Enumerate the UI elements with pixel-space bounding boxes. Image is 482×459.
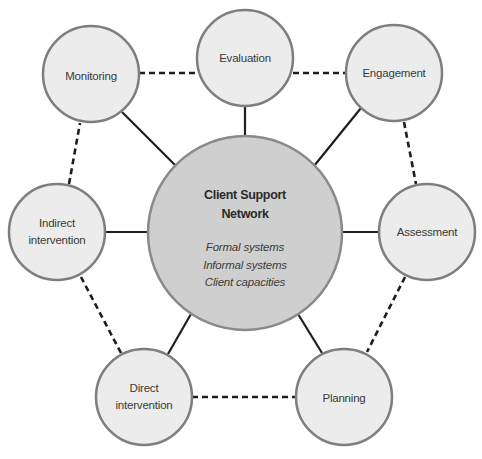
- link-center-planning: [298, 314, 322, 353]
- node-direct-intervention: Direct intervention: [96, 380, 192, 414]
- link-center-monitoring: [122, 112, 176, 166]
- link-engagement-assessment: [404, 122, 416, 184]
- center-title-line1: Client Support: [165, 186, 325, 205]
- node-planning: Planning: [296, 390, 392, 407]
- link-assessment-planning: [367, 277, 405, 352]
- center-node: Client Support Network Formal systems In…: [165, 186, 325, 292]
- link-center-direct-intervention: [168, 314, 191, 354]
- node-label-assessment: Assessment: [379, 224, 475, 241]
- center-item-informal-systems: Informal systems: [165, 257, 325, 275]
- center-items: Formal systems Informal systems Client c…: [165, 239, 325, 292]
- node-label-direct-line2: intervention: [96, 397, 192, 414]
- node-label-indirect-line2: intervention: [9, 232, 105, 249]
- node-label-monitoring: Monitoring: [43, 68, 139, 85]
- node-label-planning: Planning: [296, 390, 392, 407]
- node-label-indirect-line1: Indirect: [9, 215, 105, 232]
- node-indirect-intervention: Indirect intervention: [9, 215, 105, 249]
- node-evaluation: Evaluation: [197, 50, 293, 67]
- link-indirect-intervention-monitoring: [69, 123, 80, 184]
- node-label-engagement: Engagement: [346, 65, 442, 82]
- center-title-line2: Network: [165, 205, 325, 224]
- link-direct-intervention-indirect-intervention: [81, 277, 121, 353]
- node-monitoring: Monitoring: [43, 68, 139, 85]
- node-label-direct-line1: Direct: [96, 380, 192, 397]
- center-title: Client Support Network: [165, 186, 325, 224]
- center-item-client-capacities: Client capacities: [165, 274, 325, 292]
- link-center-engagement: [314, 108, 361, 166]
- node-assessment: Assessment: [379, 224, 475, 241]
- node-label-evaluation: Evaluation: [197, 50, 293, 67]
- center-item-formal-systems: Formal systems: [165, 239, 325, 257]
- node-engagement: Engagement: [346, 65, 442, 82]
